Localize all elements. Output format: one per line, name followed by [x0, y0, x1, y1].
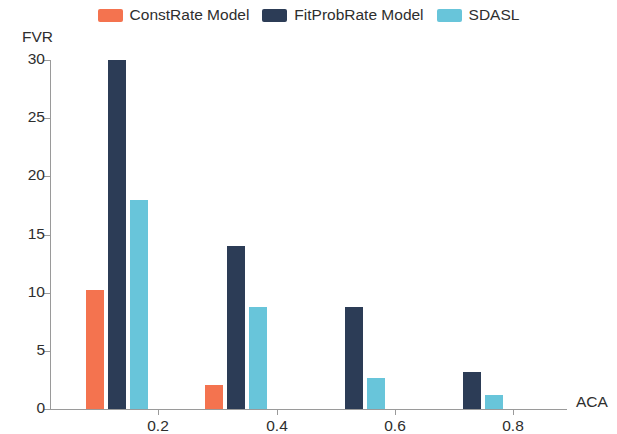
- y-tick-label: 5: [36, 342, 45, 358]
- legend-swatch-icon: [262, 9, 287, 22]
- x-axis-title: ACA: [576, 394, 608, 410]
- bar: [345, 307, 363, 409]
- bar: [485, 395, 503, 409]
- bar: [249, 307, 267, 409]
- bar: [367, 378, 385, 409]
- x-tick-label: 0.8: [502, 418, 524, 434]
- x-tick-mark: [513, 409, 514, 415]
- legend-label: ConstRate Model: [130, 7, 250, 23]
- y-tick-label: 30: [28, 51, 45, 67]
- bar: [463, 372, 481, 409]
- legend-swatch-icon: [98, 9, 123, 22]
- x-tick-label: 0.4: [266, 418, 288, 434]
- legend-label: SDASL: [469, 7, 520, 23]
- chart-legend: ConstRate ModelFitProbRate ModelSDASL: [0, 4, 617, 26]
- x-axis-line: [50, 409, 567, 410]
- bar: [205, 385, 223, 409]
- legend-item[interactable]: ConstRate Model: [98, 7, 250, 23]
- x-tick-mark: [158, 409, 159, 415]
- bar: [108, 60, 126, 409]
- bar: [130, 200, 148, 409]
- legend-item[interactable]: FitProbRate Model: [262, 7, 423, 23]
- y-axis-line: [50, 60, 51, 409]
- y-tick-label: 0: [36, 400, 45, 416]
- y-tick-label: 15: [28, 226, 45, 242]
- plot-area: 051015202530 0.20.40.60.8: [50, 60, 567, 409]
- bar: [227, 246, 245, 409]
- legend-swatch-icon: [437, 9, 462, 22]
- y-tick-label: 20: [28, 167, 45, 183]
- x-tick-mark: [395, 409, 396, 415]
- legend-label: FitProbRate Model: [294, 7, 423, 23]
- legend-item[interactable]: SDASL: [437, 7, 520, 23]
- x-tick-label: 0.2: [147, 418, 169, 434]
- y-axis-title: FVR: [22, 29, 53, 45]
- x-tick-label: 0.6: [384, 418, 406, 434]
- y-tick-label: 25: [28, 109, 45, 125]
- bar: [86, 290, 104, 409]
- x-tick-mark: [277, 409, 278, 415]
- y-tick-label: 10: [28, 284, 45, 300]
